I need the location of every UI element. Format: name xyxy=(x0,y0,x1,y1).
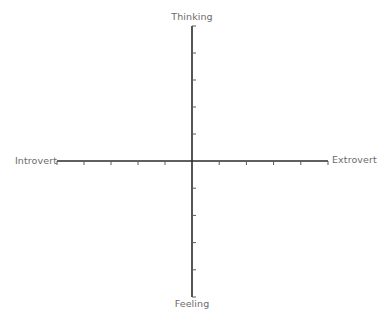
axis-label-extrovert: Extrovert xyxy=(332,154,377,165)
quadrant-diagram xyxy=(0,0,387,323)
axis-label-introvert: Introvert xyxy=(15,155,57,166)
axis-label-thinking: Thinking xyxy=(171,11,212,22)
axis-label-feeling: Feeling xyxy=(175,298,210,309)
